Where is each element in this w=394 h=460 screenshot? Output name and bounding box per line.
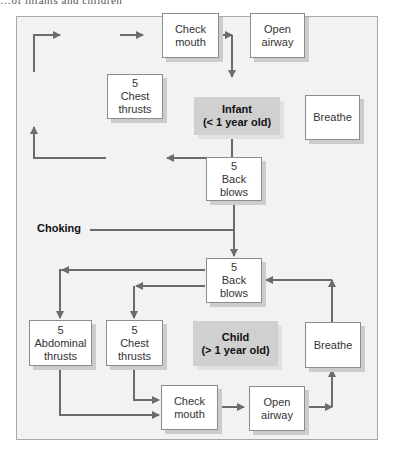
node-line: Open [264, 396, 291, 409]
node-line: airway [262, 36, 294, 49]
node-line: Back [222, 173, 246, 186]
child-check-mouth-node: Check mouth [161, 385, 218, 430]
child-abdominal-thrusts-node: 5 Abdominal thrusts [29, 320, 92, 366]
node-line: Back [222, 274, 246, 287]
node-line: 5 [231, 261, 237, 274]
infant-open-airway-node: Open airway [250, 13, 305, 58]
node-line: Open [264, 23, 291, 36]
node-line: airway [261, 409, 293, 422]
node-line: thrusts [44, 350, 77, 363]
node-line: 5 [131, 324, 137, 337]
infant-back-blows-node: 5 Back blows [206, 157, 262, 201]
child-back-blows-node: 5 Back blows [206, 258, 262, 303]
infant-label: Infant (< 1 year old) [194, 97, 280, 135]
child-title: Child [222, 331, 250, 344]
node-line: blows [220, 287, 248, 300]
node-line: 5 [132, 77, 138, 90]
node-line: thrusts [118, 103, 151, 116]
node-line: mouth [175, 36, 206, 49]
node-line: Breathe [313, 111, 352, 124]
node-line: Chest [120, 337, 149, 350]
infant-breathe-node: Breathe [305, 95, 360, 140]
node-line: 5 [231, 160, 237, 173]
infant-check-mouth-node: Check mouth [162, 13, 219, 58]
child-breathe-node: Breathe [305, 322, 361, 368]
node-line: Check [175, 23, 206, 36]
node-line: Check [174, 395, 205, 408]
infant-chest-thrusts-node: 5 Chest thrusts [107, 74, 163, 119]
child-chest-thrusts-node: 5 Chest thrusts [106, 320, 163, 366]
node-line: Chest [121, 90, 150, 103]
node-line: thrusts [118, 350, 151, 363]
node-line: Abdominal [35, 337, 87, 350]
choking-label: Choking [37, 222, 81, 234]
node-line: mouth [174, 408, 205, 421]
infant-subtitle: (< 1 year old) [203, 116, 271, 129]
node-line: blows [220, 186, 248, 199]
node-line: Breathe [314, 339, 353, 352]
child-label: Child (> 1 year old) [193, 321, 278, 366]
child-open-airway-node: Open airway [249, 386, 305, 431]
child-subtitle: (> 1 year old) [201, 344, 269, 357]
infant-title: Infant [222, 103, 252, 116]
node-line: 5 [57, 324, 63, 337]
